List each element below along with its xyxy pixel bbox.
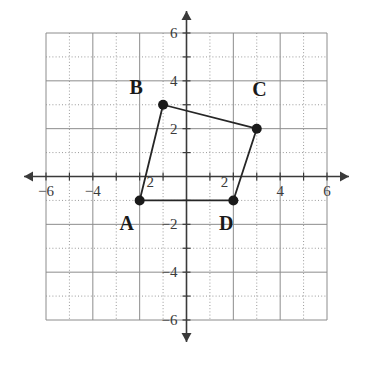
inline-coordinate-label: 2 [221,174,229,190]
vertex-label-d: D [219,212,233,234]
coordinate-plane-figure: −6−446642−2−4−6 22 ABCD [0,0,376,368]
x-tick-label: −4 [85,183,101,199]
polygon-edges [140,105,257,201]
y-tick-label: 6 [170,25,178,41]
y-tick-label: 4 [170,73,178,89]
x-tick-label: 6 [323,183,331,199]
vertex-point-b [158,100,168,110]
y-tick-label: −4 [162,264,178,280]
x-tick-label: −6 [38,183,54,199]
quadrilateral-outline [140,105,257,201]
x-axis-arrow-left [24,172,33,182]
vertex-label-a: A [120,212,135,234]
vertex-labels: ABCD [120,76,267,234]
vertex-point-c [252,124,262,134]
y-tick-label: −6 [162,312,178,328]
x-axis-arrow-right [340,172,349,182]
vertex-label-c: C [252,78,266,100]
inline-coordinate-label: 2 [146,174,154,190]
vertex-label-b: B [129,76,142,98]
vertex-point-d [228,195,238,205]
y-tick-label: −2 [162,216,178,232]
y-axis-arrow-down [182,333,192,342]
y-axis-arrow-up [182,11,192,20]
vertex-point-a [135,195,145,205]
coordinate-plane-svg: −6−446642−2−4−6 22 ABCD [0,0,376,368]
x-tick-label: 4 [276,183,284,199]
y-tick-label: 2 [170,121,178,137]
axes [24,11,349,342]
